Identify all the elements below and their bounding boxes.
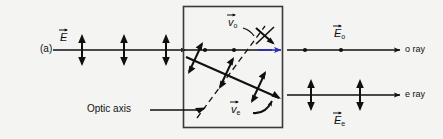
e-ray-field-label: E e xyxy=(334,115,345,127)
o-output-polarization-dot xyxy=(303,48,307,52)
o-polarization-dot xyxy=(203,48,207,52)
vector-arrow-overbar-icon xyxy=(333,110,342,115)
optic-axis-label: Optic axis xyxy=(87,104,131,114)
ve-leader-arrow xyxy=(253,101,272,113)
e-ray-field-subscript: e xyxy=(341,120,345,127)
o-polarization-dot xyxy=(232,48,236,52)
figure-double-refraction: (a) E v o v e Optic ax xyxy=(0,0,443,139)
o-ray-field-label: E o xyxy=(334,28,345,40)
diagram-canvas xyxy=(0,0,443,139)
o-output-polarization-dot xyxy=(339,48,343,52)
vo-letter: v xyxy=(228,16,234,28)
o-ray-output-group xyxy=(287,48,400,52)
vector-arrow-overbar-icon xyxy=(227,12,236,17)
vector-arrow-overbar-icon xyxy=(59,27,68,32)
vo-leader xyxy=(243,28,254,36)
vo-label: v o xyxy=(228,17,237,29)
ve-letter: v xyxy=(231,103,237,115)
vector-arrow-overbar-icon xyxy=(230,99,239,104)
ve-label: v e xyxy=(231,104,240,116)
vector-arrow-overbar-icon xyxy=(333,23,342,28)
vo-cross-marker xyxy=(256,27,275,44)
e-ray-field-letter: E xyxy=(334,114,341,126)
e-ray-output-group xyxy=(287,79,400,111)
incident-field-vector-label: E xyxy=(60,32,67,43)
o-ray-label: o ray xyxy=(405,45,425,54)
o-ray-field-subscript: o xyxy=(341,33,345,40)
vo-subscript: o xyxy=(234,22,238,29)
incident-ray-group xyxy=(53,34,186,66)
panel-label: (a) xyxy=(40,44,52,54)
o-ray-field-letter: E xyxy=(334,27,341,39)
ve-subscript: e xyxy=(237,109,241,116)
e-ray-label: e ray xyxy=(405,90,425,99)
incident-field-letter: E xyxy=(60,31,67,43)
